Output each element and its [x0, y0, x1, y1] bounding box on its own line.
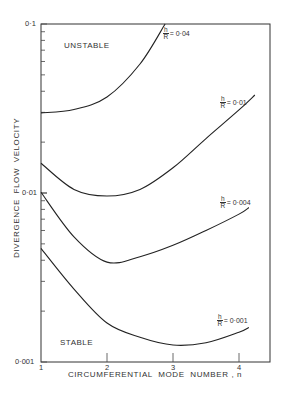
y-tick-label-0.1: 0·1 — [25, 19, 36, 28]
curve-label-h-r-0.001: hR = 0·001 — [217, 314, 248, 327]
curve-h-r-0-04 — [41, 24, 165, 113]
x-tick-label-1: 1 — [39, 363, 43, 372]
y-tick-label-0.001: 0·001 — [15, 357, 34, 366]
curve-label-h-r-0.004: hR = 0·004 — [220, 196, 251, 209]
curve-label-h-r-0.01: hR = 0·01 — [220, 96, 247, 109]
unstable-region-label: UNSTABLE — [64, 41, 110, 50]
fraction: hR — [220, 96, 226, 109]
x-tick-label-2: 2 — [105, 363, 109, 372]
x-tick-label-3: 3 — [171, 363, 175, 372]
curve-h-r-0-001 — [41, 248, 249, 345]
fraction: hR — [217, 314, 223, 327]
curve-label-h-r-0.04: hR = 0·04 — [163, 27, 190, 40]
x-axis-ticks — [107, 353, 239, 362]
curves — [41, 24, 255, 345]
fraction: hR — [163, 27, 169, 40]
curve-h-r-0-004 — [41, 192, 249, 263]
fraction: hR — [220, 196, 226, 209]
stable-region-label: STABLE — [60, 338, 93, 347]
x-tick-label-4: 4 — [237, 363, 241, 372]
plot-frame — [41, 24, 270, 362]
x-axis-label: CIRCUMFERENTIAL MODE NUMBER , n — [40, 370, 270, 379]
y-tick-label-0.01: 0·01 — [22, 188, 37, 197]
